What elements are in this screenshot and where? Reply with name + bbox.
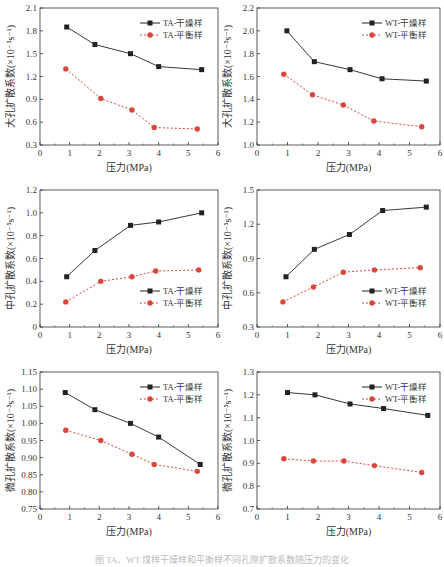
y-tick-label: 0.3 xyxy=(243,322,255,332)
square-marker xyxy=(64,274,69,279)
x-tick-label: 2 xyxy=(316,330,321,340)
circle-marker xyxy=(372,267,377,272)
x-tick-label: 0 xyxy=(255,148,260,158)
square-marker xyxy=(128,421,133,426)
circle-marker xyxy=(419,470,424,475)
x-tick-label: 0 xyxy=(38,330,43,340)
square-marker xyxy=(128,223,133,228)
circle-marker xyxy=(419,124,424,129)
x-axis-label: 压力(MPa) xyxy=(326,343,372,356)
x-tick-label: 0 xyxy=(255,330,260,340)
x-tick-label: 3 xyxy=(127,512,132,522)
x-tick-label: 5 xyxy=(186,148,191,158)
y-tick-label: 0.6 xyxy=(26,254,38,264)
chart-svg: 01234560.70.80.91.01.11.21.3压力(MPa)微孔扩散系… xyxy=(222,364,444,547)
circle-marker xyxy=(129,274,134,279)
square-marker xyxy=(312,247,317,252)
y-tick-label: 0.9 xyxy=(243,254,255,264)
circle-marker xyxy=(152,125,157,130)
y-tick-label: 1.0 xyxy=(26,208,38,218)
square-marker xyxy=(348,401,353,406)
square-marker xyxy=(380,208,385,213)
x-tick-label: 3 xyxy=(127,148,132,158)
y-tick-label: 1.2 xyxy=(243,390,254,400)
y-tick-label: 0.4 xyxy=(26,276,38,286)
x-tick-label: 6 xyxy=(216,330,221,340)
x-tick-label: 2 xyxy=(316,148,321,158)
legend-label: TA-干燥样 xyxy=(163,382,203,392)
y-tick-label: 1.2 xyxy=(26,72,37,82)
square-marker xyxy=(156,435,161,440)
x-tick-label: 4 xyxy=(156,330,161,340)
square-marker xyxy=(63,390,68,395)
chart-svg: 012345600.20.40.60.81.01.2压力(MPa)中孔扩散系数(… xyxy=(0,182,222,365)
legend-square-icon xyxy=(370,385,375,390)
x-tick-label: 3 xyxy=(127,330,132,340)
legend-square-icon xyxy=(148,289,153,294)
square-marker xyxy=(156,64,161,69)
x-axis-label: 压力(MPa) xyxy=(106,525,152,538)
y-tick-label: 1.6 xyxy=(243,72,255,82)
y-tick-label: 0 xyxy=(33,322,38,332)
square-marker xyxy=(284,28,289,33)
legend-circle-icon xyxy=(147,300,152,305)
x-tick-label: 0 xyxy=(255,512,260,522)
circle-marker xyxy=(280,299,285,304)
y-tick-label: 1.0 xyxy=(243,436,255,446)
circle-marker xyxy=(98,438,103,443)
legend-square-icon xyxy=(148,21,153,26)
y-axis-label: 中孔扩散系数(×10⁻⁵s⁻¹) xyxy=(221,207,234,310)
square-marker xyxy=(348,67,353,72)
legend-label: WT-平衡样 xyxy=(385,30,427,40)
square-marker xyxy=(312,59,317,64)
y-tick-label: 2.2 xyxy=(243,3,254,13)
circle-marker xyxy=(417,265,422,270)
circle-marker xyxy=(341,458,346,463)
chart-meso-ta: 012345600.20.40.60.81.01.2压力(MPa)中孔扩散系数(… xyxy=(0,182,222,365)
y-tick-label: 1.2 xyxy=(243,219,254,229)
y-axis-label: 中孔扩散系数(×10⁻⁵s⁻¹) xyxy=(4,207,17,310)
series-line-dry xyxy=(286,207,426,277)
x-tick-label: 2 xyxy=(97,512,102,522)
circle-marker xyxy=(153,268,158,273)
y-axis-label: 大孔扩散系数(×10⁻⁵s⁻¹) xyxy=(221,25,234,128)
series-line-equilibrium xyxy=(284,459,422,473)
figure-caption: 图 TA、WT 煤样干燥样和平衡样不同孔隙扩散系数随压力的变化 xyxy=(0,553,444,566)
legend-circle-icon xyxy=(369,300,374,305)
x-tick-label: 4 xyxy=(156,512,161,522)
x-tick-label: 6 xyxy=(438,148,443,158)
y-tick-label: 1.5 xyxy=(26,49,38,59)
chart-svg: 01234561.01.21.41.61.82.02.2压力(MPa)大孔扩散系… xyxy=(222,0,444,183)
circle-marker xyxy=(63,299,68,304)
legend-circle-icon xyxy=(147,396,152,401)
square-marker xyxy=(199,210,204,215)
circle-marker xyxy=(129,107,134,112)
circle-marker xyxy=(371,118,376,123)
circle-marker xyxy=(195,469,200,474)
legend-label: WT-干燥样 xyxy=(385,382,427,392)
chart-svg: 01234560.30.60.91.21.5压力(MPa)中孔扩散系数(×10⁻… xyxy=(222,182,444,365)
x-tick-label: 6 xyxy=(216,148,221,158)
x-tick-label: 4 xyxy=(156,148,161,158)
x-tick-label: 1 xyxy=(285,148,290,158)
chart-micro-wt: 01234560.70.80.91.01.11.21.3压力(MPa)微孔扩散系… xyxy=(222,364,444,547)
chart-svg: 01234560.30.60.91.21.51.82.1压力(MPa)大孔扩散系… xyxy=(0,0,222,183)
circle-marker xyxy=(311,458,316,463)
square-marker xyxy=(92,248,97,253)
y-tick-label: 0.9 xyxy=(243,458,255,468)
legend-label: WT-干燥样 xyxy=(385,286,427,296)
circle-marker xyxy=(98,96,103,101)
plot-frame xyxy=(257,372,440,509)
x-tick-label: 1 xyxy=(285,512,290,522)
y-tick-label: 1.10 xyxy=(21,384,37,394)
x-tick-label: 5 xyxy=(407,148,412,158)
y-tick-label: 1.4 xyxy=(243,94,255,104)
y-tick-label: 1.5 xyxy=(243,185,255,195)
x-axis-label: 压力(MPa) xyxy=(326,525,372,538)
circle-marker xyxy=(372,463,377,468)
square-marker xyxy=(424,79,429,84)
circle-marker xyxy=(311,284,316,289)
y-tick-label: 1.3 xyxy=(243,367,255,377)
legend-label: TA-平衡样 xyxy=(163,394,203,404)
series-line-equilibrium xyxy=(66,69,197,129)
